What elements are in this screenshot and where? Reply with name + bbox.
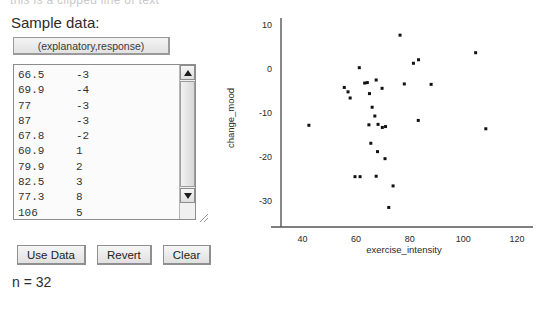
data-row: 67.8-2 xyxy=(18,129,179,144)
control-button-row: Use Data Revert Clear xyxy=(17,245,211,265)
scatter-point xyxy=(381,87,384,90)
triangle-down-glyph xyxy=(184,193,192,199)
scatter-point xyxy=(363,82,366,85)
scatter-point xyxy=(430,83,433,86)
y-tick-label: -30 xyxy=(259,196,272,206)
scatter-point xyxy=(353,175,356,178)
data-cell-response: -3 xyxy=(76,68,89,83)
data-rows-container: 66.5-369.9-477-387-367.8-260.9179.9282.5… xyxy=(14,65,179,220)
data-cell-response: 8 xyxy=(76,190,83,205)
data-cell-explanatory: 77.3 xyxy=(18,190,76,205)
x-tick-label: 40 xyxy=(297,234,307,244)
scatter-point xyxy=(375,78,378,81)
scatter-point xyxy=(484,127,487,130)
resize-grip-icon[interactable] xyxy=(199,213,209,223)
clear-button[interactable]: Clear xyxy=(163,245,211,265)
data-row: 87-3 xyxy=(18,114,179,129)
data-cell-response: -4 xyxy=(76,83,89,98)
y-tick-label: 10 xyxy=(262,20,272,30)
data-cell-explanatory: 67.8 xyxy=(18,129,76,144)
scatter-point xyxy=(366,81,369,84)
scatter-point xyxy=(417,119,420,122)
data-row: 77.38 xyxy=(18,190,179,205)
data-row: 82.53 xyxy=(18,175,179,190)
scrollbar-thumb[interactable] xyxy=(180,81,195,187)
scatter-point xyxy=(384,157,387,160)
chart-tick-labels: 406080100120100-10-20-30 xyxy=(259,20,524,244)
y-axis-label: change_mood xyxy=(225,88,236,148)
data-cell-explanatory: 69.9 xyxy=(18,83,76,98)
scatter-point xyxy=(387,206,390,209)
chart-axes xyxy=(271,18,533,227)
data-cell-explanatory: 79.9 xyxy=(18,160,76,175)
data-cell-response: 3 xyxy=(76,175,83,190)
scatter-point xyxy=(358,66,361,69)
data-scrollbar[interactable] xyxy=(179,65,195,219)
columns-header-button[interactable]: (explanatory,response) xyxy=(13,37,170,55)
scatter-plot-panel: 406080100120100-10-20-30 exercise_intens… xyxy=(225,0,540,310)
sample-size-label: n = 32 xyxy=(12,274,51,290)
x-tick-label: 60 xyxy=(351,234,361,244)
sample-data-heading: Sample data: xyxy=(11,14,99,31)
data-row: 66.5-3 xyxy=(18,68,179,83)
scatter-point xyxy=(347,90,350,93)
scatter-point xyxy=(307,124,310,127)
data-cell-response: -3 xyxy=(76,99,89,114)
data-row: 77-3 xyxy=(18,99,179,114)
scatter-point xyxy=(392,184,395,187)
scatter-point xyxy=(373,115,376,118)
sample-data-textarea[interactable]: 66.5-369.9-477-387-367.8-260.9179.9282.5… xyxy=(13,64,196,220)
data-cell-explanatory: 82.5 xyxy=(18,175,76,190)
data-cell-response: 2 xyxy=(76,160,83,175)
y-tick-label: -20 xyxy=(259,152,272,162)
scatter-point xyxy=(377,123,380,126)
y-tick-label: -10 xyxy=(259,108,272,118)
scatter-point xyxy=(384,125,387,128)
scatter-point xyxy=(367,123,370,126)
scatter-point xyxy=(417,58,420,61)
triangle-up-icon[interactable] xyxy=(180,65,195,80)
x-tick-label: 80 xyxy=(405,234,415,244)
scatter-point xyxy=(375,175,378,178)
data-row: 60.91 xyxy=(18,144,179,159)
revert-button[interactable]: Revert xyxy=(97,245,152,265)
data-cell-explanatory: 60.9 xyxy=(18,144,76,159)
scatter-point xyxy=(412,62,415,65)
data-cell-response: 1 xyxy=(76,144,83,159)
scatter-point xyxy=(376,150,379,153)
triangle-down-icon[interactable] xyxy=(180,188,195,203)
data-cell-explanatory: 77 xyxy=(18,99,76,114)
data-row: 79.92 xyxy=(18,160,179,175)
data-cell-explanatory: 87 xyxy=(18,114,76,129)
scatter-point xyxy=(403,82,406,85)
x-tick-label: 120 xyxy=(509,234,524,244)
scatter-point xyxy=(369,142,372,145)
scatter-point xyxy=(343,86,346,89)
triangle-up-glyph xyxy=(184,70,192,76)
scatter-point xyxy=(474,51,477,54)
scatter-point xyxy=(399,34,402,37)
sample-data-panel: Sample data: (explanatory,response) 66.5… xyxy=(0,0,230,310)
data-cell-response: -3 xyxy=(76,114,89,129)
y-tick-label: 0 xyxy=(267,64,272,74)
x-tick-label: 100 xyxy=(456,234,471,244)
scatter-point xyxy=(349,97,352,100)
chart-data-points xyxy=(307,34,487,209)
scatter-point xyxy=(371,106,374,109)
scatter-point xyxy=(368,92,371,95)
data-row: 1065 xyxy=(18,206,179,220)
x-axis-label: exercise_intensity xyxy=(366,244,442,255)
data-cell-response: -2 xyxy=(76,129,89,144)
data-row: 69.9-4 xyxy=(18,83,179,98)
scatter-point xyxy=(381,126,384,129)
data-cell-explanatory: 106 xyxy=(18,206,76,220)
data-cell-explanatory: 66.5 xyxy=(18,68,76,83)
use-data-button[interactable]: Use Data xyxy=(17,245,86,265)
scatter-point xyxy=(359,175,362,178)
data-cell-response: 5 xyxy=(76,206,83,220)
scatter-plot-svg: 406080100120100-10-20-30 exercise_intens… xyxy=(225,0,540,310)
